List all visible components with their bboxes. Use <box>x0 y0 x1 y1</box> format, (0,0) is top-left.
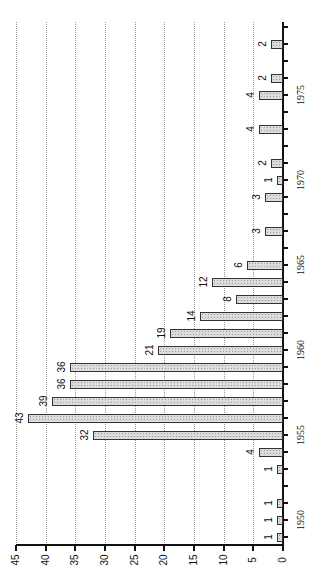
year-axis-tick <box>283 451 288 453</box>
year-axis-tick <box>283 145 288 147</box>
year-axis-tick <box>283 434 288 436</box>
bar-1961 <box>170 329 283 338</box>
bar-value-label: 4 <box>246 449 256 455</box>
bar-value-label: 14 <box>187 310 197 321</box>
value-axis-label: 45 <box>11 554 21 565</box>
value-axis-tick <box>163 545 165 551</box>
bar-1958 <box>70 380 283 389</box>
value-axis-tick <box>45 545 47 551</box>
bar-value-label: 8 <box>223 296 233 302</box>
bar-value-label: 1 <box>264 466 274 472</box>
value-axis-tick <box>252 545 254 551</box>
value-axis-tick <box>15 545 17 551</box>
gridline <box>46 22 47 545</box>
bar-value-label: 43 <box>15 412 25 423</box>
bar-value-label: 2 <box>258 75 268 81</box>
bar-value-label: 4 <box>246 126 256 132</box>
bar-1960 <box>158 346 283 355</box>
bar-1950 <box>277 516 283 525</box>
value-axis-label: 40 <box>41 554 51 565</box>
bar-1959 <box>70 363 283 372</box>
bar-value-label: 19 <box>157 327 167 338</box>
bar-value-label: 3 <box>252 194 262 200</box>
year-axis-label: 1970 <box>296 170 306 190</box>
bar-1962 <box>200 312 283 321</box>
bar-1967 <box>265 227 283 236</box>
bar-value-label: 1 <box>264 517 274 523</box>
year-axis-tick <box>283 485 288 487</box>
value-axis-label: 20 <box>159 554 169 565</box>
value-axis-tick <box>104 545 106 551</box>
bar-1964 <box>212 278 283 287</box>
year-axis-tick <box>283 383 288 385</box>
value-axis-label: 30 <box>100 554 110 565</box>
year-axis-label: 1975 <box>296 85 306 105</box>
bar-value-label: 1 <box>264 500 274 506</box>
year-axis-tick <box>283 247 288 249</box>
bar-chart: 0510152025303540451111432433936362119148… <box>0 0 320 579</box>
gridline <box>75 22 76 545</box>
year-axis-tick <box>283 366 288 368</box>
year-axis-tick <box>283 298 288 300</box>
year-axis-tick <box>283 400 288 402</box>
bar-1969 <box>265 193 283 202</box>
bar-1956 <box>28 414 283 423</box>
value-axis-tick <box>282 545 284 551</box>
value-axis-line <box>16 544 284 546</box>
year-axis-tick <box>283 332 288 334</box>
year-axis-tick <box>283 128 288 130</box>
bar-value-label: 1 <box>264 177 274 183</box>
year-axis-label: 1965 <box>296 255 306 275</box>
year-axis-tick <box>283 179 288 181</box>
value-axis-tick <box>74 545 76 551</box>
year-axis-tick <box>283 77 288 79</box>
value-axis-label: 35 <box>70 554 80 565</box>
value-axis-tick <box>223 545 225 551</box>
bar-value-label: 36 <box>57 378 67 389</box>
value-axis-tick <box>193 545 195 551</box>
bar-value-label: 32 <box>80 429 90 440</box>
bar-value-label: 2 <box>258 41 268 47</box>
bar-value-label: 12 <box>199 276 209 287</box>
bar-1976 <box>271 74 283 83</box>
bar-value-label: 3 <box>252 228 262 234</box>
year-axis-tick <box>283 281 288 283</box>
year-axis-tick <box>283 213 288 215</box>
bar-value-label: 36 <box>57 361 67 372</box>
year-axis-label: 1955 <box>296 425 306 445</box>
gridline <box>16 22 17 545</box>
bar-value-label: 1 <box>264 534 274 540</box>
year-axis-tick <box>283 417 288 419</box>
year-axis-tick <box>283 111 288 113</box>
year-axis-tick <box>283 60 288 62</box>
year-axis-tick <box>283 349 288 351</box>
value-axis-label: 15 <box>189 554 199 565</box>
value-axis-label: 5 <box>248 557 258 563</box>
bar-1949 <box>277 533 283 542</box>
bar-1955 <box>93 431 283 440</box>
value-axis-label: 25 <box>130 554 140 565</box>
gridline <box>164 22 165 545</box>
year-axis-tick <box>283 536 288 538</box>
value-axis-label: 10 <box>219 554 229 565</box>
year-axis-tick <box>283 94 288 96</box>
year-axis-tick <box>283 315 288 317</box>
bar-1973 <box>259 125 283 134</box>
value-axis-tick <box>134 545 136 551</box>
year-axis-tick <box>283 196 288 198</box>
year-axis-tick <box>283 264 288 266</box>
bar-value-label: 21 <box>145 344 155 355</box>
bar-value-label: 6 <box>234 262 244 268</box>
year-axis-tick <box>283 502 288 504</box>
bar-1951 <box>277 499 283 508</box>
year-axis-tick <box>283 26 288 28</box>
bar-1954 <box>259 448 283 457</box>
year-axis-tick <box>283 519 288 521</box>
bar-1957 <box>52 397 283 406</box>
bar-1978 <box>271 40 283 49</box>
gridline <box>194 22 195 545</box>
year-axis-tick <box>283 162 288 164</box>
bar-1970 <box>277 176 283 185</box>
value-axis-label: 0 <box>278 557 288 563</box>
bar-1971 <box>271 159 283 168</box>
